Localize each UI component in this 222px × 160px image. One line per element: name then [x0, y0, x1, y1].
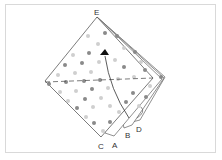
- label-c: C: [98, 142, 104, 151]
- label-d: D: [136, 125, 142, 134]
- label-b: B: [125, 131, 130, 140]
- origami-diagram: E C A B D: [0, 0, 222, 160]
- label-a: A: [112, 141, 118, 150]
- label-e: E: [94, 8, 99, 17]
